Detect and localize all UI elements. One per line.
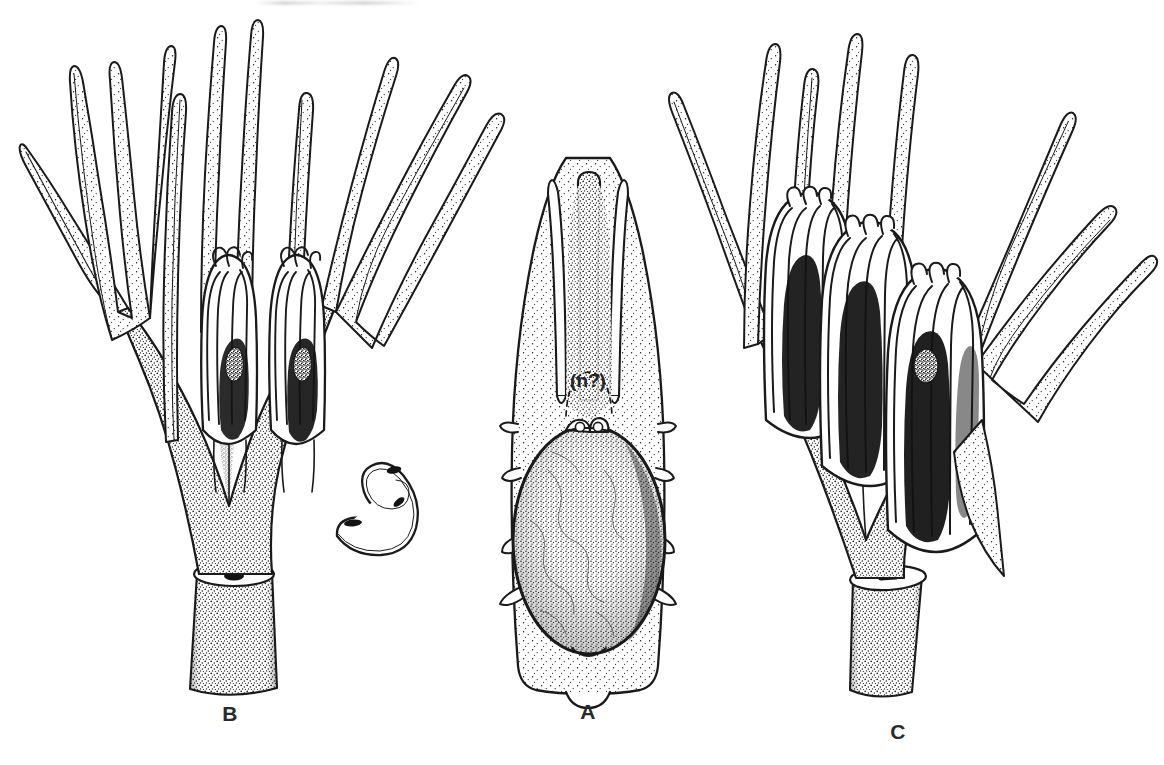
figure-label-b: B [222,702,238,726]
ovule-query-annotation: (n?) [570,370,606,392]
figure-label-c: C [890,720,906,744]
illustration-plate: B A C (n?) [0,0,1164,765]
scan-artifact-smudge [255,1,420,5]
panel-b-cut-stem [190,562,277,695]
figure-label-a: A [580,700,596,724]
panel-c-sporangium-detail [914,349,938,383]
